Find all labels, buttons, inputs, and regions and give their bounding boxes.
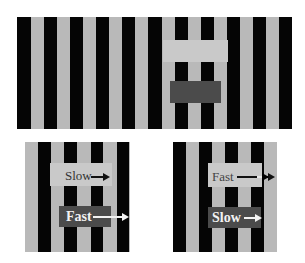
dark-stripe: [117, 142, 129, 252]
fast-label: Fast: [212, 170, 234, 183]
dark-stripe: [199, 142, 212, 252]
bottom-right-panel: Fast Slow: [173, 142, 277, 252]
dark-stripe: [70, 17, 83, 129]
slow-label: Slow: [65, 169, 92, 182]
bottom-left-panel: Slow Fast: [25, 142, 130, 252]
dark-stripe: [175, 17, 188, 129]
dark-stripe: [279, 17, 292, 129]
dark-stripe: [122, 17, 135, 129]
dark-stripe: [96, 17, 109, 129]
right-arrow-icon: [244, 217, 256, 219]
dark-stripe: [227, 17, 240, 129]
right-arrow-icon: [91, 176, 104, 178]
dark-stripe: [173, 142, 186, 252]
top-grating-panel: [17, 17, 292, 129]
fast-label: Fast: [66, 210, 92, 224]
arrow-contrast-segment: [257, 176, 263, 178]
dark-stripe: [44, 17, 57, 129]
dark-stripe: [17, 17, 31, 129]
dark-stripe: [251, 142, 264, 252]
dark-stripe: [148, 17, 162, 129]
dark-stripe: [64, 142, 77, 252]
dark-stripe: [253, 17, 266, 129]
light-gap-band: [163, 40, 228, 62]
dark-moving-box: [170, 81, 221, 103]
dark-stripe: [91, 142, 103, 252]
dark-stripe: [225, 142, 238, 252]
right-arrow-icon: [93, 216, 123, 218]
dark-stripe: [38, 142, 51, 252]
slow-label: Slow: [212, 211, 241, 225]
dark-stripe: [201, 17, 214, 129]
